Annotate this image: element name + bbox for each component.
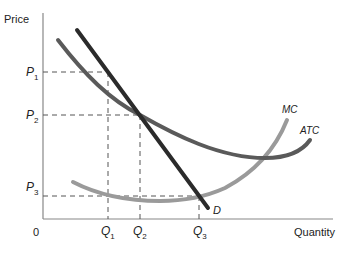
demand-label: D	[213, 204, 221, 216]
mc-label: MC	[282, 104, 298, 115]
demand-line	[77, 30, 208, 208]
p3-label: P3	[26, 180, 39, 197]
y-axis-label: Price	[4, 13, 29, 25]
x-axis-label: Quantity	[294, 226, 335, 238]
chart: Price Quantity 0 P1 P2 P3 Q1 Q2 Q3 D MC …	[0, 0, 354, 256]
q1-label: Q1	[101, 224, 115, 241]
mc-curve	[73, 120, 287, 201]
p2-label: P2	[26, 108, 39, 125]
q2-label: Q2	[133, 224, 147, 241]
q3-label: Q3	[193, 224, 207, 241]
atc-label: ATC	[299, 125, 320, 136]
p1-label: P1	[26, 65, 39, 82]
origin-label: 0	[33, 226, 39, 238]
